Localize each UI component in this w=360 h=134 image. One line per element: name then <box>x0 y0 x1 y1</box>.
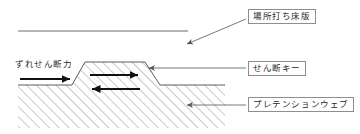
shear-force-label: ずれせん断力 <box>15 60 72 69</box>
leader-cast-in-place <box>187 19 246 44</box>
diagram-canvas: ずれせん断力 場所打ち床版 せん断キー プレテンションウェブ <box>0 0 360 134</box>
pretension-web-label: プレテンションウェブ <box>248 97 354 112</box>
shear-key-label: せん断キー <box>248 61 306 76</box>
cast-in-place-slab-label: 場所打ち床版 <box>248 9 316 24</box>
pretension-web-body <box>18 62 225 128</box>
